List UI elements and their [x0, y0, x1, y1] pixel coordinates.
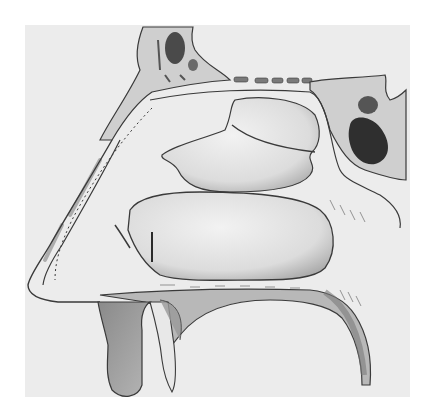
- nasal-dorsum: [28, 140, 120, 302]
- nasal-anatomy-illustration: [0, 0, 432, 419]
- sphenoid-sinus-upper: [358, 96, 378, 114]
- sphenoid-bone: [310, 75, 406, 180]
- frontal-sinus: [165, 32, 185, 64]
- inferior-turbinate: [128, 192, 333, 280]
- upper-lip-incisor: [98, 300, 181, 396]
- frontal-bone: [100, 27, 230, 140]
- middle-turbinate: [162, 98, 320, 192]
- cribriform-plate: [234, 77, 312, 83]
